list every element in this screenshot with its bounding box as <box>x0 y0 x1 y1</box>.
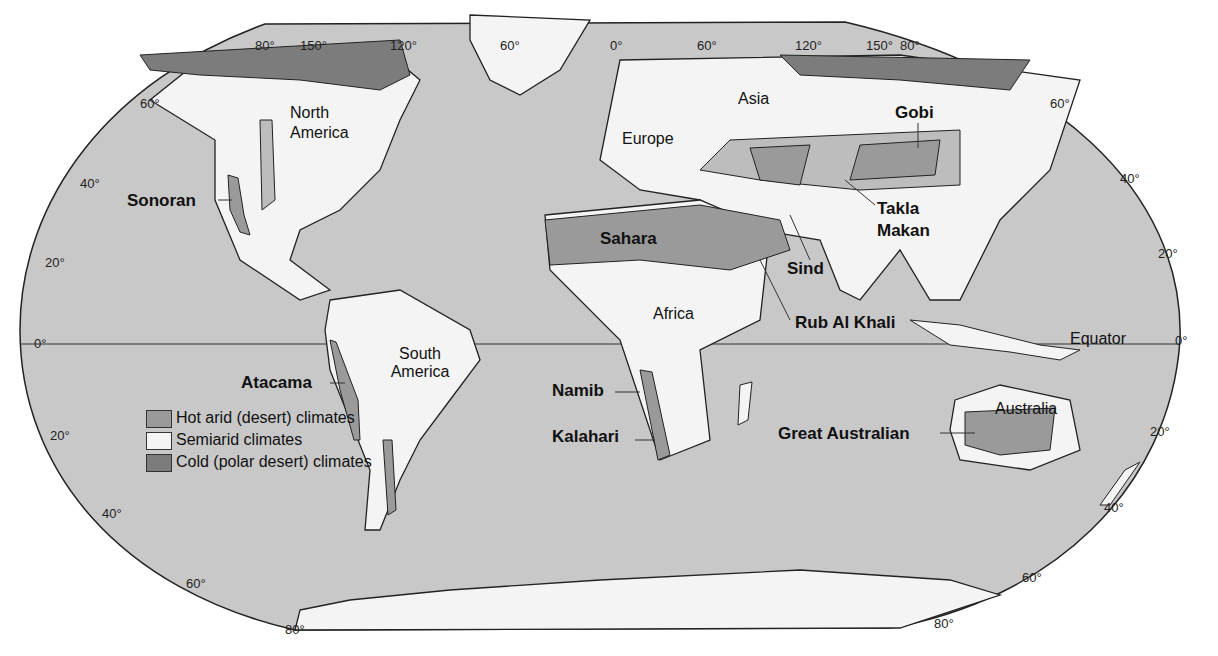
tick-lon: 60° <box>500 38 520 53</box>
tick-lat-right: 0° <box>1175 333 1187 348</box>
label-kalahari: Kalahari <box>552 428 619 446</box>
tick-lon: 150° <box>866 38 893 53</box>
tick-lat-left: 60° <box>186 576 206 591</box>
tick-lon: 0° <box>610 38 622 53</box>
legend-item-cold-polar: Cold (polar desert) climates <box>146 452 386 472</box>
label-north-america: America <box>290 124 349 142</box>
tick-lat-left: 20° <box>45 255 65 270</box>
label-takla: Takla <box>877 200 919 218</box>
label-north-america-1: North <box>290 104 329 122</box>
tick-lat-right: 40° <box>1120 171 1140 186</box>
label-atacama: Atacama <box>241 374 312 392</box>
label-gobi: Gobi <box>895 104 934 122</box>
label-south-america: South America <box>380 345 460 381</box>
label-africa: Africa <box>653 305 694 323</box>
legend-item-semiarid: Semiarid climates <box>146 430 386 450</box>
label-rub-al-khali: Rub Al Khali <box>795 314 895 332</box>
label-sahara: Sahara <box>600 230 657 248</box>
tick-lon: 80° <box>255 38 275 53</box>
tick-lat-left: 20° <box>50 428 70 443</box>
label-great-australian: Great Australian <box>778 425 910 443</box>
tick-lon: 120° <box>795 38 822 53</box>
legend-item-hot-arid: Hot arid (desert) climates <box>146 408 386 428</box>
tick-lon: 150° <box>300 38 327 53</box>
semiarid-great-plains <box>260 120 275 210</box>
label-australia: Australia <box>995 400 1057 418</box>
tick-lat-right: 60° <box>1050 96 1070 111</box>
tick-lat-left: 60° <box>140 96 160 111</box>
tick-lat-right: 20° <box>1158 246 1178 261</box>
tick-lat-left: 40° <box>80 176 100 191</box>
label-europe: Europe <box>622 130 674 148</box>
swatch-semiarid <box>146 432 172 450</box>
label-asia: Asia <box>738 90 769 108</box>
swatch-hot-arid <box>146 410 172 428</box>
tick-lat-left: 80° <box>285 622 305 637</box>
tick-lat-right: 80° <box>934 616 954 631</box>
label-equator: Equator <box>1070 330 1126 348</box>
legend-label: Cold (polar desert) climates <box>176 452 376 472</box>
label-namib: Namib <box>552 382 604 400</box>
label-sonoran: Sonoran <box>127 192 196 210</box>
label-makan: Makan <box>877 222 930 240</box>
hot-gobi <box>850 140 940 180</box>
tick-lon: 60° <box>697 38 717 53</box>
world-desert-map <box>0 0 1218 656</box>
tick-lat-right: 20° <box>1150 424 1170 439</box>
tick-lat-right: 60° <box>1022 570 1042 585</box>
label-sind: Sind <box>787 260 824 278</box>
tick-lat-right: 40° <box>1104 500 1124 515</box>
legend-label: Hot arid (desert) climates <box>176 408 376 428</box>
legend-label: Semiarid climates <box>176 430 376 450</box>
tick-lon: 120° <box>390 38 417 53</box>
tick-lon: 80° <box>900 38 920 53</box>
legend: Hot arid (desert) climates Semiarid clim… <box>146 408 386 474</box>
tick-lat-left: 0° <box>34 336 46 351</box>
tick-lat-left: 40° <box>102 506 122 521</box>
swatch-cold-polar <box>146 454 172 472</box>
